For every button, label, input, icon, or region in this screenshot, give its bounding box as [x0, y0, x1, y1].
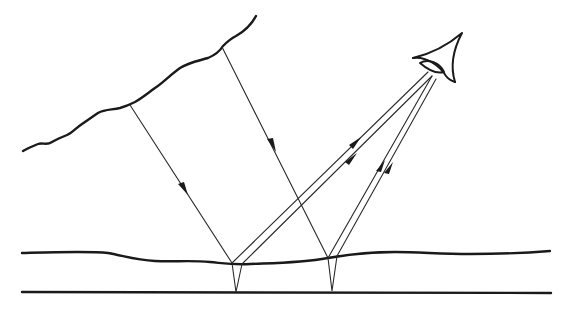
refraction-path-right	[328, 256, 337, 291]
sky-boundary-line	[23, 16, 256, 151]
reflection-diagram	[0, 0, 574, 320]
eye-icon	[413, 33, 462, 82]
arrowhead-icon	[178, 182, 188, 195]
arrowhead-icon	[345, 153, 357, 165]
reflected-ray-left-b	[242, 76, 432, 264]
arrowhead-icon	[376, 160, 385, 172]
diagram-canvas	[0, 0, 574, 320]
reflected-ray-right-b	[337, 79, 436, 256]
arrowhead-icon	[267, 138, 276, 152]
water-surface-line	[22, 251, 550, 264]
reflected-ray-left-a	[232, 72, 428, 263]
bottom-layer-line	[22, 292, 551, 293]
incident-ray-2	[222, 47, 328, 258]
refraction-path-left	[232, 263, 242, 292]
